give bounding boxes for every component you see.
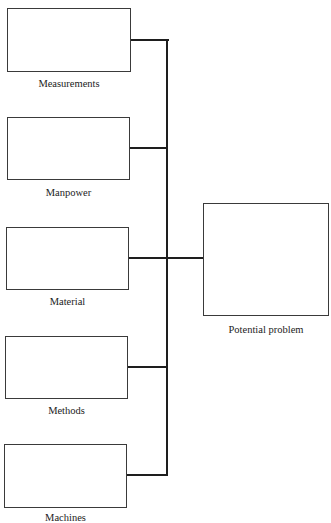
effect-label: Potential problem bbox=[203, 324, 329, 335]
cause-label-manpower: Manpower bbox=[7, 187, 130, 198]
cause-label-material: Material bbox=[6, 296, 129, 307]
cause-box-measurements bbox=[7, 8, 131, 72]
cause-label-methods: Methods bbox=[5, 405, 128, 416]
effect-box bbox=[203, 203, 329, 316]
cause-box-manpower bbox=[7, 117, 130, 180]
cause-box-material bbox=[6, 227, 129, 290]
connector-methods bbox=[128, 366, 167, 368]
connector-measurements bbox=[131, 39, 169, 41]
connector-manpower bbox=[130, 147, 168, 149]
cause-box-methods bbox=[5, 336, 128, 399]
cause-box-machines bbox=[4, 444, 127, 508]
cause-label-machines: Machines bbox=[4, 512, 127, 523]
connector-machines bbox=[127, 474, 167, 476]
cause-label-measurements: Measurements bbox=[7, 78, 131, 89]
spine-line bbox=[166, 39, 168, 476]
